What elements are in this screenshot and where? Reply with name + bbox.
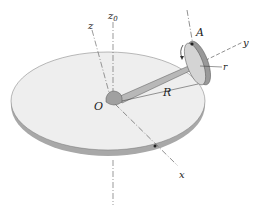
x-axis-rim-point [154,145,157,148]
label-r: r [223,62,228,72]
label-R: R [162,86,171,99]
label-O: O [94,100,103,113]
wheel-vertical-axis [187,10,193,45]
rotation-arrowhead-icon [180,56,184,60]
label-y: y [242,37,249,48]
label-z: z [87,20,94,31]
label-A: A [195,26,204,39]
label-z0: z0 [107,10,118,23]
hub [106,91,122,105]
diagram: z z0 A y r R O x [0,0,254,213]
point-A [190,42,193,45]
label-x: x [179,169,185,180]
